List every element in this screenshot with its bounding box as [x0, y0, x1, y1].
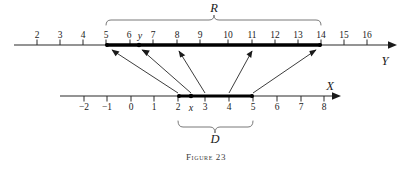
y-tick-label-4: 4 — [81, 31, 86, 41]
x-tick-label-7: 7 — [299, 103, 304, 113]
x-tick-label-6: 6 — [275, 103, 280, 113]
x-tick-label-0: 0 — [129, 103, 134, 113]
x-tick-label-1: 1 — [152, 103, 157, 113]
y-axis-name: Y — [382, 55, 389, 68]
x-tick-label-neg1: −1 — [102, 103, 112, 113]
y-tick-label-7: 7 — [151, 31, 156, 41]
x-tick-label-2: 2 — [176, 103, 181, 113]
mapping-arrows — [112, 50, 317, 93]
x-tick-label-3: 3 — [203, 103, 208, 113]
x-tick-label-neg2: −2 — [79, 103, 89, 113]
x-axis-name: X — [326, 80, 334, 93]
y-axis-group — [14, 40, 397, 49]
x-axis-group — [60, 92, 341, 101]
y-tick-label-14: 14 — [316, 31, 326, 41]
y-tick-label-10: 10 — [223, 31, 233, 41]
point-y-label: y — [138, 31, 142, 41]
x-tick-label-5: 5 — [251, 103, 256, 113]
number-line-mapping-svg — [0, 0, 412, 170]
point-x-label: x — [189, 103, 193, 113]
y-tick-label-3: 3 — [58, 31, 63, 41]
brace-R — [106, 15, 321, 25]
figure-caption: Figure 23 — [0, 153, 412, 162]
x-tick-label-4: 4 — [227, 103, 232, 113]
y-tick-label-2: 2 — [35, 31, 40, 41]
point-y-marker — [137, 43, 141, 47]
y-tick-label-11: 11 — [247, 31, 256, 41]
y-tick-label-16: 16 — [362, 31, 372, 41]
brace-label-D: D — [210, 133, 219, 146]
point-x-marker — [189, 94, 193, 98]
figure-23-diagram: 2 3 4 5 6 7 8 9 10 11 12 13 14 15 16 y −… — [0, 0, 412, 170]
y-tick-label-6: 6 — [127, 31, 132, 41]
y-tick-label-13: 13 — [293, 31, 303, 41]
y-tick-label-9: 9 — [198, 31, 203, 41]
brace-label-R: R — [210, 2, 218, 15]
y-tick-label-5: 5 — [104, 31, 109, 41]
x-tick-label-8: 8 — [322, 103, 327, 113]
y-tick-label-12: 12 — [270, 31, 280, 41]
y-tick-label-8: 8 — [175, 31, 180, 41]
y-tick-label-15: 15 — [339, 31, 349, 41]
